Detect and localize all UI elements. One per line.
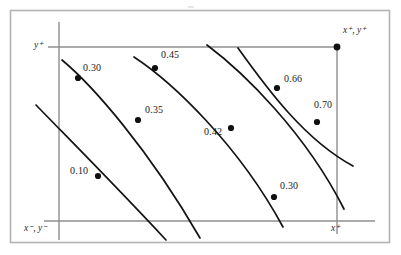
axis-label-x-plus-y-plus: x⁺, y⁺ xyxy=(343,26,366,36)
axis-label-x-minus-y-minus: x⁻, y⁻ xyxy=(24,224,47,234)
data-point-0-45[interactable] xyxy=(152,65,158,71)
point-label-0-35: 0.35 xyxy=(145,105,163,115)
axis-label-y-plus: y⁺ xyxy=(34,41,43,51)
point-label-0-70: 0.70 xyxy=(314,100,332,110)
scan-artifact xyxy=(188,6,194,8)
point-label-0-10: 0.10 xyxy=(70,166,88,176)
data-point-0-70[interactable] xyxy=(314,119,320,125)
point-label-0-42: 0.42 xyxy=(204,127,222,137)
data-point-corner-x-plus-y-plus[interactable] xyxy=(334,44,341,51)
contour-figure-svg xyxy=(0,0,401,255)
point-label-0-66: 0.66 xyxy=(284,74,302,84)
point-label-0-45: 0.45 xyxy=(161,50,179,60)
point-label-0-30-upper: 0.30 xyxy=(83,63,101,73)
data-point-0-35[interactable] xyxy=(135,117,141,123)
data-point-0-30-upper[interactable] xyxy=(75,75,81,81)
figure-page: 0.30 0.45 0.35 0.42 0.66 0.70 0.10 0.30 … xyxy=(0,0,401,255)
data-point-0-66[interactable] xyxy=(274,85,280,91)
data-point-0-10[interactable] xyxy=(95,173,101,179)
page-background xyxy=(0,0,401,255)
data-point-0-30-lower[interactable] xyxy=(271,194,277,200)
data-point-0-42[interactable] xyxy=(228,125,234,131)
axis-label-x-plus: x⁺ xyxy=(331,224,340,234)
point-label-0-30-lower: 0.30 xyxy=(280,181,298,191)
